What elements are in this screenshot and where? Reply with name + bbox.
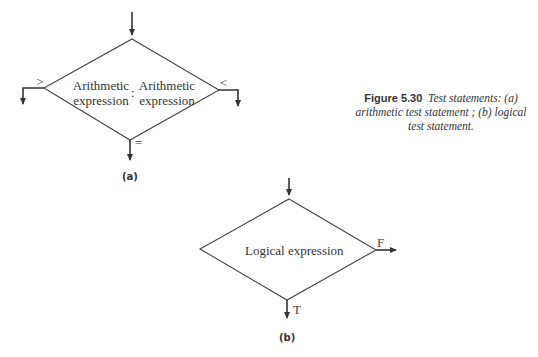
less-branch-arrow — [219, 90, 238, 106]
right-arithmetic-expression: Arithmetic expression — [136, 78, 198, 108]
left-expression-line-2: expression — [70, 93, 132, 108]
greater-branch-arrow — [23, 88, 44, 104]
logical-expression-text: Logical expression — [245, 243, 344, 258]
comparison-separator: : — [131, 85, 135, 100]
false-label: F — [377, 235, 384, 250]
less-than-label: < — [220, 75, 227, 90]
left-arithmetic-expression: Arithmetic expression — [70, 78, 132, 108]
right-expression-line-2: expression — [136, 93, 198, 108]
subfigure-label-b: (b) — [279, 330, 295, 345]
equal-label: = — [135, 135, 142, 150]
true-label: T — [293, 302, 301, 317]
flowchart-canvas — [0, 0, 538, 357]
greater-than-label: > — [36, 74, 43, 89]
figure-caption: Figure 5.30 Test statements: (a) arithme… — [348, 91, 534, 133]
subfigure-label-a: (a) — [122, 169, 138, 184]
left-expression-line-1: Arithmetic — [70, 78, 132, 93]
right-expression-line-1: Arithmetic — [136, 78, 198, 93]
figure-number: Figure 5.30 — [364, 92, 422, 104]
